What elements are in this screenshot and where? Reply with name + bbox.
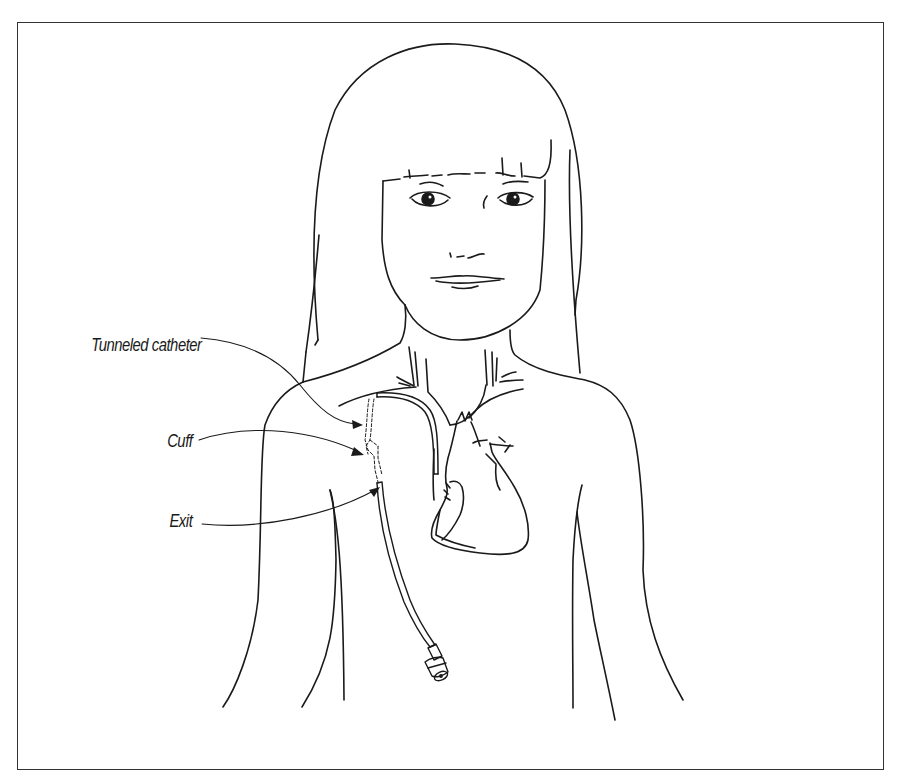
tunneled-catheter — [377, 393, 438, 474]
label-exit: Exit — [169, 510, 192, 532]
right-eye — [498, 181, 533, 205]
heart — [431, 412, 528, 554]
label-cuff: Cuff — [167, 430, 192, 452]
catheter-illustration — [0, 0, 901, 783]
torso-lines — [302, 485, 615, 720]
arrow-icon — [352, 420, 363, 429]
cuff-leader — [199, 431, 355, 450]
arrow-icon — [351, 447, 364, 456]
bangs — [383, 140, 551, 181]
catheter-hub-icon — [425, 644, 449, 683]
neck-shoulders — [223, 305, 683, 707]
subcutaneous-tunnel — [365, 399, 382, 482]
label-tunneled-catheter: Tunneled catheter — [92, 334, 202, 356]
left-eye — [410, 182, 450, 206]
nose — [450, 196, 487, 258]
hair-outline — [306, 44, 582, 373]
tunneled-leader — [201, 338, 355, 424]
mouth — [431, 276, 504, 289]
great-veins — [339, 347, 523, 425]
leader-lines — [199, 338, 375, 525]
external-catheter — [377, 482, 435, 647]
exit-leader — [202, 490, 375, 525]
